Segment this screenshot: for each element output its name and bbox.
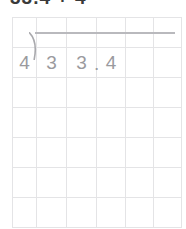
cell-r6-c0[interactable] xyxy=(13,198,37,228)
decimal-point: . xyxy=(94,54,99,73)
cell-r2-c2[interactable] xyxy=(67,78,97,108)
table-row[interactable] xyxy=(13,198,182,228)
cell-r4-c4[interactable] xyxy=(126,138,154,168)
cell-r4-c5[interactable] xyxy=(154,138,182,168)
cell-r6-c1[interactable] xyxy=(37,198,67,228)
cell-r1-c4[interactable] xyxy=(126,48,154,78)
cell-text: 4 xyxy=(97,53,125,72)
cell-r5-c0[interactable] xyxy=(13,168,37,198)
cell-r3-c0[interactable] xyxy=(13,108,37,138)
cell-r3-c1[interactable] xyxy=(37,108,67,138)
cell-r2-c1[interactable] xyxy=(37,78,67,108)
cell-r6-c3[interactable] xyxy=(97,198,126,228)
page-title: 33.4 ÷ 4 xyxy=(10,0,87,9)
cell-r5-c1[interactable] xyxy=(37,168,67,198)
table-row[interactable]: 4 3 3 .4 xyxy=(13,48,182,78)
cell-r5-c2[interactable] xyxy=(67,168,97,198)
cell-dividend-2[interactable]: 3 xyxy=(67,48,97,78)
cell-r3-c5[interactable] xyxy=(154,108,182,138)
cell-r5-c5[interactable] xyxy=(154,168,182,198)
cell-r5-c3[interactable] xyxy=(97,168,126,198)
cell-r6-c5[interactable] xyxy=(154,198,182,228)
cell-r2-c0[interactable] xyxy=(13,78,37,108)
cell-r6-c2[interactable] xyxy=(67,198,97,228)
cell-r4-c3[interactable] xyxy=(97,138,126,168)
cell-r6-c4[interactable] xyxy=(126,198,154,228)
cell-divisor[interactable]: 4 xyxy=(13,48,37,78)
cell-r5-c4[interactable] xyxy=(126,168,154,198)
cell-dividend-3[interactable]: .4 xyxy=(97,48,126,78)
divisor-text: 4 xyxy=(13,53,36,72)
cell-dividend-1[interactable]: 3 xyxy=(37,48,67,78)
table-row[interactable] xyxy=(13,138,182,168)
cell-r1-c5[interactable] xyxy=(154,48,182,78)
cell-r4-c2[interactable] xyxy=(67,138,97,168)
worksheet-grid[interactable]: 4 3 3 .4 xyxy=(12,17,175,222)
table-row[interactable] xyxy=(13,168,182,198)
grid-table: 4 3 3 .4 xyxy=(12,17,182,228)
table-row[interactable] xyxy=(13,108,182,138)
cell-r4-c1[interactable] xyxy=(37,138,67,168)
cell-r2-c5[interactable] xyxy=(154,78,182,108)
cell-text: 3 xyxy=(37,53,66,72)
cell-r4-c0[interactable] xyxy=(13,138,37,168)
table-row[interactable] xyxy=(13,78,182,108)
cell-r3-c4[interactable] xyxy=(126,108,154,138)
cell-r3-c3[interactable] xyxy=(97,108,126,138)
cell-r0-c0[interactable] xyxy=(13,18,37,48)
cell-r2-c3[interactable] xyxy=(97,78,126,108)
division-vinculum xyxy=(35,32,175,34)
cell-r3-c2[interactable] xyxy=(67,108,97,138)
heading-clip: 33.4 ÷ 4 xyxy=(0,0,186,9)
cell-r2-c4[interactable] xyxy=(126,78,154,108)
cell-text: 3 xyxy=(67,53,96,72)
